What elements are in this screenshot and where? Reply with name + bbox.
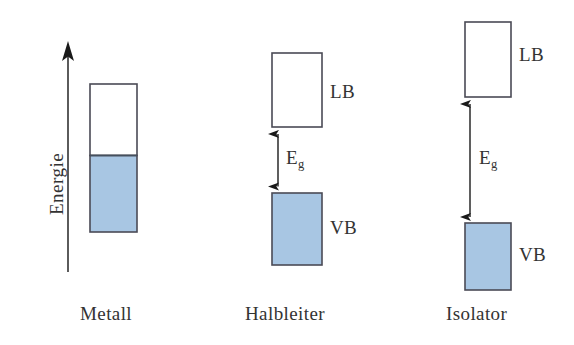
panel-caption-halbleiter: Halbleiter bbox=[245, 304, 325, 323]
isolator-valence-band-label: VB bbox=[519, 245, 546, 264]
panel-caption-metall: Metall bbox=[80, 304, 132, 323]
isolator-gap-label: Eg bbox=[479, 148, 497, 171]
panel-metall-bands bbox=[90, 84, 137, 232]
band-structure-figure: Energie LB VB Eg LB VB Eg Metall Halblei… bbox=[0, 0, 574, 345]
diagram-vector-layer bbox=[0, 0, 574, 345]
halbleiter-valence-band bbox=[272, 193, 322, 265]
isolator-gap-symbol: E bbox=[479, 147, 491, 168]
isolator-gap-subscript: g bbox=[491, 157, 497, 171]
metall-filled-band bbox=[90, 156, 137, 233]
metall-empty-band bbox=[90, 84, 137, 156]
panel-caption-isolator: Isolator bbox=[446, 304, 507, 323]
halbleiter-conduction-band-label: LB bbox=[330, 82, 355, 101]
halbleiter-gap-subscript: g bbox=[298, 157, 304, 171]
isolator-conduction-band bbox=[465, 22, 511, 97]
isolator-conduction-band-label: LB bbox=[519, 45, 544, 64]
halbleiter-conduction-band bbox=[272, 53, 322, 127]
halbleiter-valence-band-label: VB bbox=[330, 218, 357, 237]
isolator-valence-band bbox=[465, 223, 511, 290]
energy-axis-label: Energie bbox=[47, 153, 66, 215]
halbleiter-gap-symbol: E bbox=[286, 147, 298, 168]
halbleiter-gap-label: Eg bbox=[286, 148, 304, 171]
